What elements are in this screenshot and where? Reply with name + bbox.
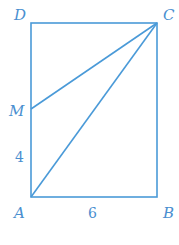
segment-mc (31, 23, 157, 109)
length-ab: 6 (88, 206, 97, 220)
label-a: A (14, 206, 25, 221)
label-d: D (14, 8, 26, 23)
label-b: B (163, 206, 174, 221)
label-c: C (163, 8, 174, 23)
segment-ac (31, 23, 157, 197)
label-m: M (9, 104, 24, 119)
length-am: 4 (15, 150, 24, 164)
